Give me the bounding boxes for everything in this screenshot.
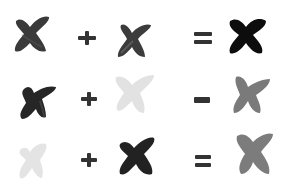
plus-icon	[77, 30, 97, 46]
x-mark-icon	[115, 19, 153, 59]
minus-icon	[193, 96, 211, 104]
x-mark-icon	[112, 71, 156, 115]
x-mark-icon	[233, 130, 277, 176]
plus-icon	[80, 91, 98, 107]
x-mark-icon	[16, 83, 58, 121]
x-mark-icon	[226, 13, 270, 57]
x-mark-icon	[116, 134, 158, 178]
equation-row-1	[0, 5, 296, 63]
equation-row-3	[0, 126, 296, 184]
equals-icon	[193, 31, 213, 45]
x-mark-icon	[12, 13, 52, 55]
x-mark-icon	[16, 138, 50, 182]
equals-icon	[194, 154, 212, 168]
plus-icon	[80, 152, 98, 168]
equation-row-2	[0, 67, 296, 125]
x-mark-icon	[230, 73, 272, 115]
